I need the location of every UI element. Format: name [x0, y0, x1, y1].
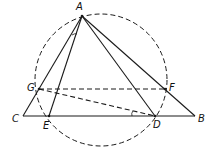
segment-ae	[49, 16, 82, 116]
dashed-circle	[35, 14, 167, 146]
angle-mark-d	[132, 111, 133, 116]
label-g: G	[27, 83, 35, 93]
point-d	[154, 115, 157, 118]
solid-segments	[23, 16, 195, 116]
point-e	[48, 115, 51, 118]
label-e: E	[43, 121, 49, 131]
point-f	[164, 88, 167, 91]
segment-ad	[82, 16, 155, 116]
label-b: B	[198, 114, 205, 124]
vertex-dots	[38, 15, 167, 118]
label-c: C	[12, 114, 19, 124]
dashed-segments	[39, 89, 165, 116]
point-g	[38, 88, 41, 91]
segment-ab	[82, 16, 195, 116]
segment-ac	[23, 16, 82, 116]
geometry-diagram: A B C D E F G	[0, 0, 218, 154]
point-a	[81, 15, 84, 18]
label-a: A	[76, 2, 83, 12]
label-f: F	[169, 83, 175, 93]
label-d: D	[153, 120, 161, 130]
diagram-figure	[0, 0, 218, 154]
